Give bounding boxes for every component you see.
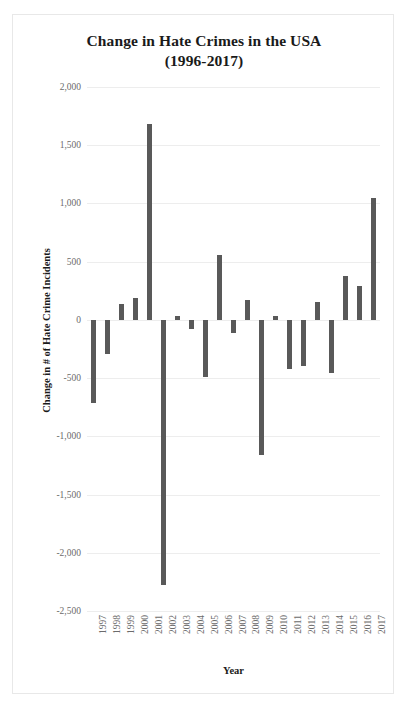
- x-tick-label: 1997: [98, 615, 108, 634]
- x-tick-label: 2002: [168, 615, 178, 634]
- y-tick-label: 1,000: [21, 198, 81, 208]
- x-tick-label: 2004: [196, 615, 206, 634]
- bar-2012: [301, 320, 306, 367]
- x-tick-label: 2015: [349, 615, 359, 634]
- x-tick-label: 2000: [140, 615, 150, 634]
- chart-title-line2: (1996-2017): [13, 51, 395, 71]
- x-tick-label: 2003: [182, 615, 192, 634]
- bar-2004: [189, 320, 194, 329]
- x-tick-label: 2013: [321, 615, 331, 634]
- bar-2001: [147, 124, 152, 320]
- bar-2005: [203, 320, 208, 377]
- x-tick-label: 2009: [265, 615, 275, 634]
- bar-2007: [231, 320, 236, 333]
- x-axis-title: Year: [87, 665, 380, 676]
- chart-title-line1: Change in Hate Crimes in the USA: [87, 32, 322, 49]
- bar-2006: [217, 255, 222, 320]
- x-tick-label: 2017: [377, 615, 387, 634]
- y-tick-label: -2,000: [21, 548, 81, 558]
- x-tick-label: 2012: [307, 615, 317, 634]
- x-tick-label: 2010: [279, 615, 289, 634]
- x-axis-tick-labels: 1997199819992000200120022003200420052006…: [87, 615, 380, 661]
- x-tick-label: 2005: [210, 615, 220, 634]
- x-tick-label: 2016: [363, 615, 373, 634]
- y-axis-tick-labels: 2,0001,5001,0005000-500-1,000-1,500-2,00…: [19, 87, 81, 611]
- y-tick-label: 1,500: [21, 140, 81, 150]
- x-tick-label: 2008: [251, 615, 261, 634]
- bar-2002: [161, 320, 166, 585]
- bar-2009: [259, 320, 264, 455]
- x-tick-label: 2001: [154, 615, 164, 634]
- bar-1997: [91, 320, 96, 403]
- gridline: [87, 611, 380, 612]
- bar-2011: [287, 320, 292, 369]
- y-tick-label: -2,500: [21, 606, 81, 616]
- y-tick-label: -1,500: [21, 490, 81, 500]
- y-tick-label: 500: [21, 257, 81, 267]
- chart-card: Change in Hate Crimes in the USA (1996-2…: [12, 14, 394, 694]
- x-tick-label: 2007: [238, 615, 248, 634]
- bars-layer: [87, 87, 380, 611]
- bar-2015: [343, 276, 348, 320]
- chart-title: Change in Hate Crimes in the USA (1996-2…: [13, 31, 395, 71]
- bar-2013: [315, 302, 320, 319]
- x-tick-label: 2014: [335, 615, 345, 634]
- bar-2010: [273, 316, 278, 319]
- y-tick-label: 2,000: [21, 82, 81, 92]
- x-tick-label: 2011: [293, 615, 303, 634]
- bar-2017: [371, 198, 376, 320]
- bar-2014: [329, 320, 334, 373]
- y-tick-label: -500: [21, 373, 81, 383]
- bar-1999: [119, 304, 124, 320]
- bar-2000: [133, 298, 138, 320]
- bar-1998: [105, 320, 110, 354]
- plot-area: [87, 87, 380, 611]
- bar-2003: [175, 316, 180, 320]
- bar-2016: [357, 286, 362, 320]
- y-tick-label: -1,000: [21, 431, 81, 441]
- x-tick-label: 1998: [112, 615, 122, 634]
- x-tick-label: 2006: [224, 615, 234, 634]
- x-tick-label: 1999: [126, 615, 136, 634]
- y-tick-label: 0: [21, 315, 81, 325]
- bar-2008: [245, 300, 250, 320]
